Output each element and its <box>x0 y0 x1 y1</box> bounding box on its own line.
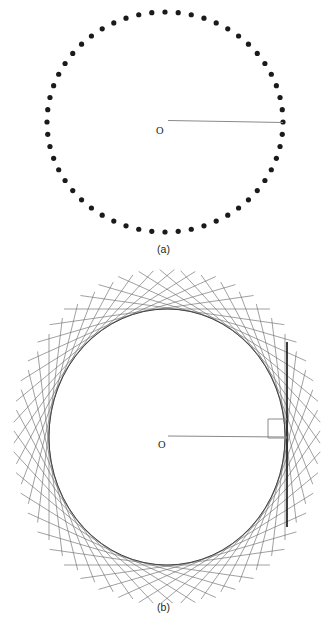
circle-point-dot <box>225 213 230 218</box>
circle-point-dot <box>100 213 105 218</box>
circle-point-dot <box>136 227 141 232</box>
circle-point-dot <box>277 144 282 149</box>
circle-point-dot <box>45 107 50 112</box>
circle-point-dot <box>274 156 279 161</box>
circle-point-dot <box>280 132 285 137</box>
circle-point-dot <box>51 83 56 88</box>
circle-point-dot <box>149 229 154 234</box>
circle-point-dot <box>201 16 206 21</box>
circle-point-dot <box>44 119 49 124</box>
panel-a-caption: (a) <box>0 243 327 255</box>
circle-point-dot <box>162 9 167 14</box>
circle-point-dot <box>214 20 219 25</box>
circle-point-dot <box>280 107 285 112</box>
circle-point-dot <box>123 16 128 21</box>
circle-point-dot <box>45 132 50 137</box>
circle-point-dot <box>225 26 230 31</box>
circle-point-dot <box>277 95 282 100</box>
circle-point-dot <box>100 26 105 31</box>
circle-point-dot <box>136 12 141 17</box>
circle-point-dot <box>56 167 61 172</box>
circle-point-dot <box>79 197 84 202</box>
circle-point-dot <box>149 10 154 15</box>
circle-point-dot <box>236 33 241 38</box>
circle-point-dot <box>70 51 75 56</box>
circle-point-dot <box>89 205 94 210</box>
tangent-line <box>160 473 318 603</box>
circle-point-dot <box>89 33 94 38</box>
circle-point-dot <box>262 61 267 66</box>
circle-point-dot <box>123 223 128 228</box>
figure-root: O (a) O (b) <box>0 0 327 620</box>
tangent-line <box>16 473 174 603</box>
circle-point-dot <box>47 95 52 100</box>
circle-point-dot <box>62 61 67 66</box>
circle-point-dot <box>236 205 241 210</box>
tangent-envelope-lines <box>14 270 321 603</box>
circle-point-dot <box>162 229 167 234</box>
circle-point-dot <box>269 167 274 172</box>
radius-line-b <box>168 436 287 437</box>
circle-point-dot <box>255 51 260 56</box>
circle-point-dot <box>262 178 267 183</box>
circle-point-dot <box>189 227 194 232</box>
circle-point-dot <box>176 229 181 234</box>
circle-point-dot <box>189 12 194 17</box>
circle-point-dot <box>111 20 116 25</box>
figure-panel-b: O <box>0 268 327 603</box>
panel-b-caption: (b) <box>0 601 327 613</box>
circle-point-dot <box>79 42 84 47</box>
circle-point-dot <box>274 83 279 88</box>
circle-point-dot <box>111 219 116 224</box>
figure-panel-a: O <box>0 0 327 243</box>
circle-point-dot <box>255 188 260 193</box>
circle-point-dot <box>62 178 67 183</box>
circle-point-dot <box>269 72 274 77</box>
circle-point-dot <box>246 42 251 47</box>
circle-point-dot <box>246 197 251 202</box>
circle-point-dot <box>56 72 61 77</box>
circle-point-dot <box>176 10 181 15</box>
radius-line-a <box>168 121 283 123</box>
circle-point-dot <box>201 223 206 228</box>
circle-point-dot <box>47 144 52 149</box>
circle-point-dot <box>51 156 56 161</box>
circle-point-dot <box>214 219 219 224</box>
center-point-label-a: O <box>156 125 164 136</box>
center-point-label-b: O <box>158 439 166 450</box>
circle-point-dot <box>70 188 75 193</box>
